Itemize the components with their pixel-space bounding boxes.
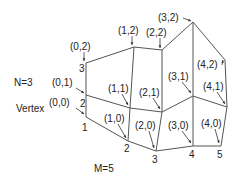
vertex-number: 4 bbox=[189, 149, 195, 160]
vertex-label: (1,1) bbox=[108, 83, 129, 94]
m-label: M=5 bbox=[94, 163, 114, 174]
vertex-label: (4,2) bbox=[197, 59, 218, 70]
vertex-label: (4,1) bbox=[203, 81, 224, 92]
vertex-label: (0,0) bbox=[49, 97, 70, 108]
mesh-edge bbox=[193, 96, 227, 107]
vertex-label: (1,2) bbox=[118, 25, 139, 36]
vertex-label: (4,0) bbox=[201, 118, 222, 129]
mesh-edge bbox=[130, 47, 134, 108]
mesh-edge bbox=[86, 47, 134, 63]
arrowhead-icon bbox=[221, 60, 224, 63]
vertex-number: 2 bbox=[80, 98, 86, 109]
mesh-diagram: (0,0)(0,1)(0,2)(1,0)(1,1)(1,2)(2,0)(2,1)… bbox=[0, 0, 238, 182]
vertex-label: (0,2) bbox=[70, 41, 91, 52]
mesh-edge bbox=[134, 47, 162, 50]
mesh-edge bbox=[162, 96, 193, 112]
vertex-number: 1 bbox=[82, 122, 88, 133]
vertex-prefix: Vertex bbox=[16, 103, 44, 114]
vertex-number: 2 bbox=[124, 143, 130, 154]
n-label: N=3 bbox=[14, 77, 33, 88]
vertex-label: (2,2) bbox=[146, 27, 167, 38]
vertex-number: 3 bbox=[79, 63, 85, 74]
vertex-label: (3,1) bbox=[168, 71, 189, 82]
mesh-edge bbox=[128, 108, 130, 141]
vertex-label: (1,0) bbox=[104, 113, 125, 124]
arrowhead-icon bbox=[131, 42, 134, 45]
vertex-label: (3,2) bbox=[158, 12, 179, 23]
vertex-label: (3,0) bbox=[168, 120, 189, 131]
mesh-edge bbox=[221, 107, 227, 146]
vertex-label: (2,1) bbox=[139, 87, 160, 98]
arrowhead-icon bbox=[83, 58, 86, 61]
mesh-edge bbox=[225, 60, 227, 107]
vertex-label: (2,0) bbox=[135, 120, 156, 131]
vertex-label: (0,1) bbox=[52, 77, 73, 88]
mesh-edge bbox=[162, 22, 193, 50]
mesh-edge bbox=[193, 22, 225, 60]
arrowhead-icon bbox=[159, 45, 162, 48]
mesh-edge bbox=[128, 141, 156, 151]
vertex-number: 3 bbox=[152, 154, 158, 165]
vertex-labels: (0,0)(0,1)(0,2)(1,0)(1,1)(1,2)(2,0)(2,1)… bbox=[49, 12, 224, 131]
mesh-edge bbox=[130, 108, 162, 112]
mesh-edge bbox=[156, 146, 193, 151]
vertex-number: 5 bbox=[217, 149, 223, 160]
mesh-edge bbox=[156, 112, 162, 151]
